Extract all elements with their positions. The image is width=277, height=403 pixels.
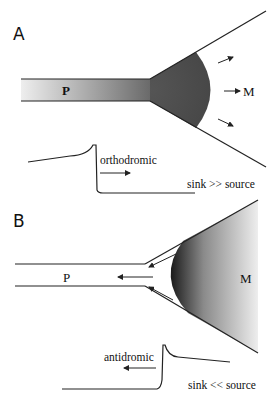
panel-a-label: A [13,24,25,44]
ap-trace-a [28,145,195,193]
cone-upper-line-a [150,11,266,79]
depolarized-cone-a [150,52,211,128]
process-label-a: P [62,83,70,98]
panel-b: B P M antidromic sink << source [13,200,258,391]
panel-a: A P M orthodromic sink >> source [13,11,266,193]
direction-label-b: antidromic [104,351,154,363]
direction-label-a: orthodromic [100,154,157,166]
figure-canvas: A P M orthodromic sink >> source B [0,0,277,403]
process-label-b: P [63,270,70,285]
target-label-b: M [240,271,252,286]
arrow-down-right-icon [218,119,233,126]
cone-lower-line-a [150,101,266,167]
ratio-label-b: sink << source [188,379,256,391]
arrow-lower-inward-icon [149,287,173,300]
target-label-a: M [243,84,255,99]
diagram-svg: A P M orthodromic sink >> source B [0,0,277,403]
process-tube-a [21,79,150,101]
arrow-up-right-icon [218,57,233,63]
panel-b-label: B [13,211,25,231]
ratio-label-a: sink >> source [187,178,255,190]
